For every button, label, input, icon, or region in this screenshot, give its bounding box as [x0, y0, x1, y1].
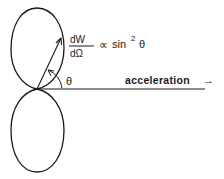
theta-label: θ [66, 75, 72, 87]
acceleration-arrow-icon: → [203, 74, 214, 86]
dipole-radiation-diagram: θ dW dΩ ∝ sin 2 θ acceleration → [0, 0, 224, 179]
bottom-radiation-lobe [11, 89, 64, 172]
theta-angle-arc [48, 70, 62, 88]
formula-variable: θ [139, 38, 145, 50]
acceleration-label: acceleration [125, 74, 190, 86]
formula-function: sin [112, 38, 126, 50]
formula-numerator: dW [70, 34, 86, 45]
formula-relation: ∝ [99, 38, 108, 52]
formula-denominator: dΩ [70, 48, 84, 59]
radial-vector-line [37, 38, 61, 89]
formula-exponent: 2 [131, 34, 136, 43]
